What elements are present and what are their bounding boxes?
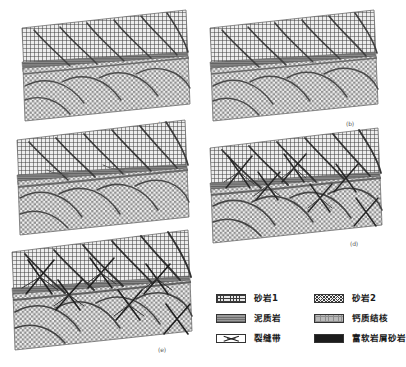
panel-b: (b)	[206, 8, 381, 138]
panel-e: (e)	[8, 228, 196, 364]
legend-grid: 砂岩1 砂岩2 泥质岩 钙质结核 裂缝带 富软岩屑砂岩	[216, 288, 388, 348]
legend-swatch-mudstone	[216, 314, 246, 323]
legend-label-fracture-zone: 裂缝带	[254, 334, 310, 343]
legend-label-calcareous-nodule: 钙质结核	[352, 314, 406, 323]
panel-b-diagram	[206, 8, 381, 138]
legend-swatch-sandstone-2	[314, 294, 344, 303]
legend-label-sandstone-1: 砂岩1	[254, 294, 310, 303]
legend: 砂岩1 砂岩2 泥质岩 钙质结核 裂缝带 富软岩屑砂岩	[216, 288, 388, 354]
panel-label-e: (e)	[158, 346, 166, 353]
panel-label-d: (d)	[350, 240, 358, 247]
legend-label-mudstone: 泥质岩	[254, 314, 310, 323]
legend-label-soft-debris-rich-sandstone: 富软岩屑砂岩	[352, 334, 406, 343]
panel-d: (d)	[206, 126, 386, 258]
legend-swatch-calcareous-nodule	[314, 314, 344, 323]
legend-swatch-fracture-zone	[216, 334, 246, 343]
fracture-zone-icon	[217, 335, 246, 343]
legend-label-sandstone-2: 砂岩2	[352, 294, 406, 303]
panel-e-diagram	[8, 228, 196, 364]
legend-swatch-soft-debris-rich-sandstone	[314, 334, 344, 343]
legend-swatch-sandstone-1	[216, 294, 246, 303]
panel-d-diagram	[206, 126, 386, 258]
